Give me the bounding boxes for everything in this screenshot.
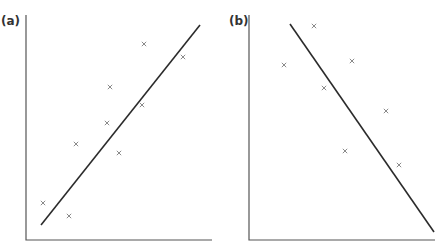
data-point-x-marker (105, 121, 109, 125)
data-point-x-marker (117, 151, 121, 155)
data-point-x-marker (384, 109, 388, 113)
panel-b-axes (249, 15, 435, 240)
data-point-x-marker (312, 24, 316, 28)
panel-b: (b) (229, 14, 435, 240)
data-point-x-marker (41, 201, 45, 205)
data-point-x-marker (74, 142, 78, 146)
panel-a-label: (a) (1, 14, 20, 28)
data-point-x-marker (282, 63, 286, 67)
figure: (a) (b) (0, 0, 446, 248)
data-point-x-marker (108, 85, 112, 89)
data-point-x-marker (142, 42, 146, 46)
panel-a-points (41, 42, 185, 218)
panel-b-fit-line (290, 24, 434, 232)
data-point-x-marker (140, 103, 144, 107)
data-point-x-marker (67, 214, 71, 218)
panel-b-points (282, 24, 401, 167)
data-point-x-marker (397, 163, 401, 167)
data-point-x-marker (322, 86, 326, 90)
data-point-x-marker (350, 59, 354, 63)
data-point-x-marker (181, 55, 185, 59)
panel-a: (a) (1, 14, 212, 240)
data-point-x-marker (343, 149, 347, 153)
panel-a-fit-line (41, 25, 200, 225)
panel-b-label: (b) (229, 14, 249, 28)
